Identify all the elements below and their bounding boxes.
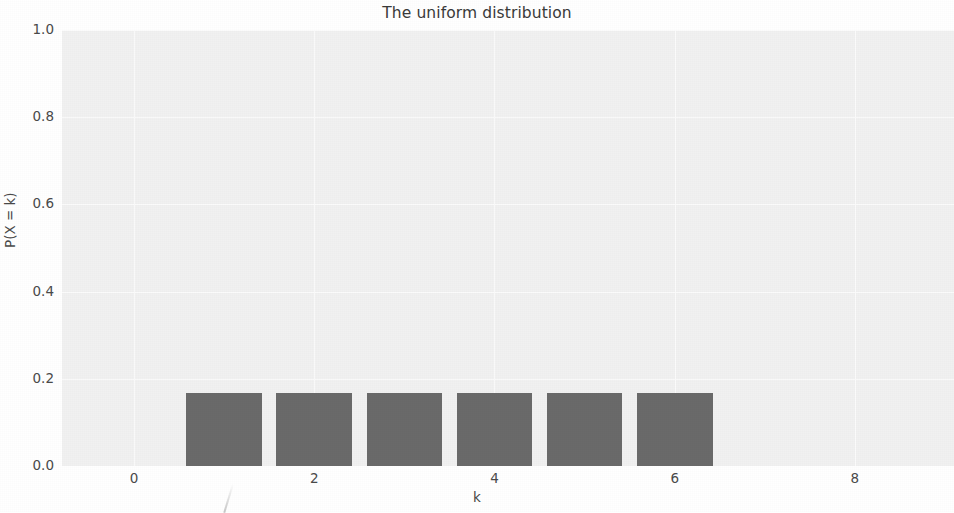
plot-area xyxy=(62,30,954,466)
y-tick-label: 0.2 xyxy=(18,370,54,386)
gridline-horizontal xyxy=(62,292,954,293)
y-tick-label: 0.8 xyxy=(18,108,54,124)
x-axis-label: k xyxy=(0,489,954,505)
gridline-horizontal xyxy=(62,117,954,118)
y-tick-label: 0.6 xyxy=(18,195,54,211)
bar xyxy=(186,393,262,466)
x-tick-label: 2 xyxy=(310,470,319,486)
bar xyxy=(547,393,623,466)
gridline-vertical xyxy=(134,30,135,466)
x-tick-label: 0 xyxy=(130,470,139,486)
x-tick-label: 8 xyxy=(851,470,860,486)
y-tick-label: 1.0 xyxy=(18,21,54,37)
chart-title: The uniform distribution xyxy=(0,4,954,22)
bar xyxy=(637,393,713,466)
bar xyxy=(367,393,443,466)
x-tick-label: 6 xyxy=(670,470,679,486)
y-tick-label: 0.4 xyxy=(18,283,54,299)
gridline-horizontal xyxy=(62,379,954,380)
y-axis-label: P(X = k) xyxy=(2,192,18,248)
x-tick-label: 4 xyxy=(490,470,499,486)
gridline-vertical xyxy=(855,30,856,466)
bar xyxy=(276,393,352,466)
bar xyxy=(457,393,533,466)
y-tick-label: 0.0 xyxy=(18,457,54,473)
gridline-horizontal xyxy=(62,30,954,31)
gridline-horizontal xyxy=(62,204,954,205)
